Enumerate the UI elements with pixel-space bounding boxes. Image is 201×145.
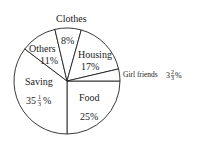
label-clothes-value: 8% [61, 35, 74, 46]
label-food-value: 25% [80, 111, 98, 122]
label-housing-name: Housing [78, 49, 112, 60]
label-clothes-name: Clothes [56, 13, 87, 24]
label-saving-den: 3 [38, 101, 41, 107]
label-others-value: 11% [40, 55, 58, 66]
label-saving-name: Saving [25, 76, 53, 87]
label-girlfriends-pct: % [175, 71, 182, 80]
label-food-name: Food [79, 92, 100, 103]
pie-chart: Clothes 8% Others 11% Housing 17% Girl f… [0, 0, 201, 145]
label-girlfriends-whole: 3 [166, 71, 170, 80]
label-housing-value: 17% [81, 61, 99, 72]
slice-food [67, 81, 120, 134]
label-girlfriends-den: 3 [171, 75, 174, 81]
label-saving-pct: % [43, 95, 51, 106]
label-others-name: Others [29, 43, 56, 54]
label-saving-whole: 35 [26, 95, 36, 106]
label-saving-num: 1 [38, 94, 41, 100]
label-girlfriends-name: Girl friends [123, 70, 158, 79]
